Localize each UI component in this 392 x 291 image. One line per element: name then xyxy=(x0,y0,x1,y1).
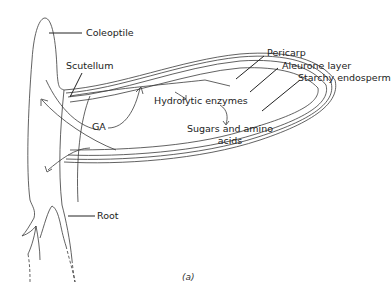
label-root: Root xyxy=(97,211,119,221)
germinating-seed-diagram xyxy=(0,0,392,291)
label-sugars-amino-acids: Sugars and amino acids xyxy=(185,124,275,145)
scutellum-shape xyxy=(60,90,90,205)
label-hydrolytic-enzymes: Hydrolytic enzymes xyxy=(154,96,248,106)
label-sugars-line2: acids xyxy=(185,136,275,146)
figure-caption: (a) xyxy=(182,273,195,282)
label-ga: GA xyxy=(92,122,106,132)
label-aleurone-layer: Aleurone layer xyxy=(282,61,351,71)
root-shape xyxy=(22,205,75,282)
label-starchy-endosperm: Starchy endosperm xyxy=(298,73,391,83)
label-coleoptile: Coleoptile xyxy=(86,28,134,38)
label-scutellum: Scutellum xyxy=(66,61,113,71)
coleoptile-shape xyxy=(28,18,64,218)
label-pericarp: Pericarp xyxy=(267,48,306,58)
label-sugars-line1: Sugars and amino xyxy=(185,124,275,134)
